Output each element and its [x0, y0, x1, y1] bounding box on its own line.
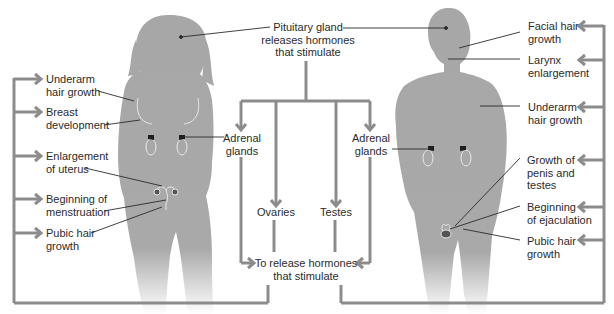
testes-label: Testes — [317, 206, 355, 219]
ovaries-label: Ovaries — [256, 206, 296, 219]
female-effect-arrows — [14, 74, 41, 238]
male-silhouette — [395, 8, 507, 314]
female-effect-uterus-enlargement: Enlargement of uterus — [46, 150, 108, 175]
adrenal-glands-male-label: Adrenal glands — [351, 132, 391, 157]
male-effect-penis-testes-growth: Growth of penis and testes — [527, 154, 575, 192]
male-effect-facial-hair: Facial hair growth — [528, 20, 579, 45]
adrenal-glands-female-label: Adrenal glands — [222, 132, 262, 157]
pituitary-gland-label: Pituitary gland releases hormones that s… — [258, 21, 358, 59]
female-silhouette — [118, 15, 214, 314]
male-effect-larynx: Larynx enlargement — [528, 54, 589, 79]
female-effect-breast-development: Breast development — [46, 106, 109, 131]
male-genitals — [441, 224, 451, 238]
release-hormones-label: To release hormones that stimulate — [252, 257, 360, 282]
female-effect-underarm-hair: Underarm hair growth — [46, 73, 100, 98]
female-effect-pubic-hair: Pubic hair growth — [46, 227, 95, 252]
male-effect-underarm-hair: Underarm hair growth — [528, 101, 582, 126]
male-effect-ejaculation: Beginning of ejaculation — [527, 201, 592, 226]
female-effect-menstruation: Beginning of menstruation — [46, 193, 110, 218]
puberty-hormone-diagram: Pituitary gland releases hormones that s… — [0, 0, 614, 314]
male-effect-pubic-hair: Pubic hair growth — [527, 235, 576, 260]
